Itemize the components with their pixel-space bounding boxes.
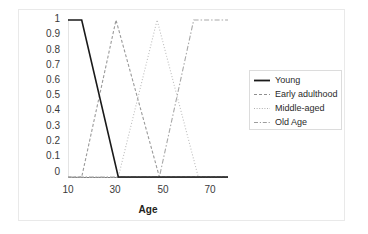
series-line-young	[68, 20, 228, 177]
legend-label: Old Age	[275, 118, 307, 127]
plot-area	[68, 19, 228, 178]
x-tick-label: 70	[195, 185, 225, 195]
legend-swatch-dashdot-icon	[253, 118, 271, 127]
legend-label: Early adulthood	[275, 90, 338, 99]
y-tick-label: 0.9	[30, 29, 60, 39]
y-tick-label: 0.4	[30, 105, 60, 115]
legend-swatch-dotted-icon	[253, 104, 271, 113]
legend-swatch-solid-icon	[253, 76, 271, 85]
y-tick-label: 0.3	[30, 121, 60, 131]
legend-item-middle-aged: Middle-aged	[253, 102, 341, 115]
y-tick-label: 0.1	[30, 151, 60, 161]
x-axis-title: Age	[68, 204, 228, 215]
series-line-old-age	[68, 20, 228, 177]
legend-label: Young	[275, 76, 300, 85]
membership-function-chart: Membership 1 0.9 0.8 0.7 0.6 0.5 0.4 0.3…	[0, 0, 368, 234]
y-tick-label: 0.2	[30, 136, 60, 146]
legend-item-old-age: Old Age	[253, 116, 341, 129]
y-tick-label: 0	[30, 167, 60, 177]
x-tick-label: 10	[53, 185, 83, 195]
legend-item-early-adulthood: Early adulthood	[253, 88, 341, 101]
chart-legend: Young Early adulthood Middle-aged	[249, 70, 342, 130]
plot-svg	[68, 19, 228, 178]
series-line-middle-aged	[68, 20, 228, 177]
y-tick-label: 0.6	[30, 75, 60, 85]
series-line-early-adulthood	[68, 20, 228, 177]
y-tick-label: 1	[30, 14, 60, 24]
x-tick-label: 30	[100, 185, 130, 195]
legend-item-young: Young	[253, 74, 341, 87]
legend-label: Middle-aged	[275, 104, 325, 113]
y-tick-label: 0.7	[30, 60, 60, 70]
legend-swatch-dashed-icon	[253, 90, 271, 99]
y-tick-label: 0.8	[30, 45, 60, 55]
x-tick-label: 50	[148, 185, 178, 195]
y-tick-label: 0.5	[30, 90, 60, 100]
